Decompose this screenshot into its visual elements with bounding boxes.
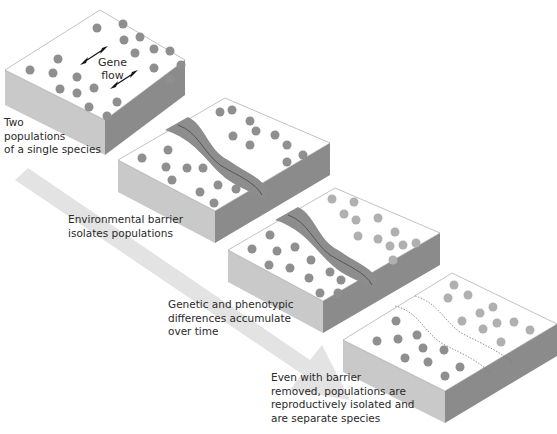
gene-flow-label: Gene flow xyxy=(98,56,127,82)
label-line: isolates populations xyxy=(68,227,183,241)
label-line: differences accumulate xyxy=(168,312,294,326)
label-line: removed, populations are xyxy=(271,385,415,399)
label-line: of a single species xyxy=(4,143,101,157)
label-line: Even with barrier xyxy=(271,371,415,385)
stage-2-label: Environmental barrier isolates populatio… xyxy=(68,213,183,240)
stage-3-label: Genetic and phenotypic differences accum… xyxy=(168,298,294,339)
label-line: Genetic and phenotypic xyxy=(168,298,294,312)
label-line: populations xyxy=(4,130,101,144)
label-line: Environmental barrier xyxy=(68,213,183,227)
gene-flow-line2: flow xyxy=(98,69,127,82)
stage-4-label: Even with barrier removed, populations a… xyxy=(271,371,415,425)
label-line: Two xyxy=(4,116,101,130)
stage-1-label: Two populations of a single species xyxy=(4,116,101,157)
label-line: reproductively isolated and xyxy=(271,398,415,412)
label-line: over time xyxy=(168,325,294,339)
gene-flow-line1: Gene xyxy=(98,56,127,69)
label-line: are separate species xyxy=(271,412,415,426)
